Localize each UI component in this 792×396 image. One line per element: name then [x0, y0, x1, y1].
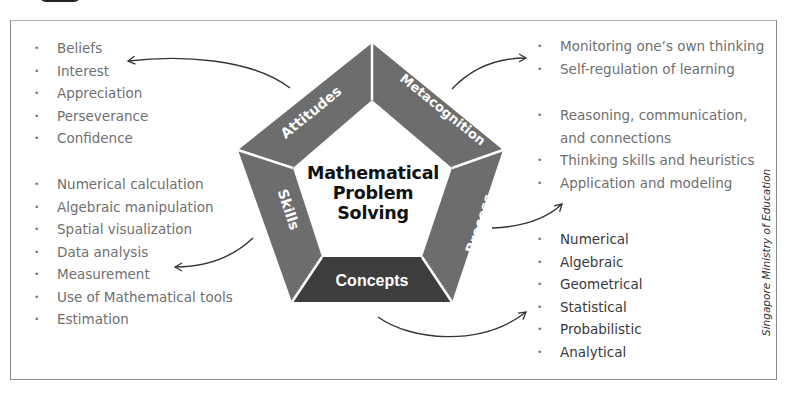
list-item: Spatial visualization [33, 218, 233, 241]
list-item: Algebraic manipulation [33, 196, 233, 219]
concepts-arrow [378, 312, 526, 337]
list-item: Estimation [33, 308, 233, 331]
attitudes-arrow [128, 58, 290, 88]
concepts-label: Concepts [336, 272, 409, 289]
list-item-continuation: and connections [536, 127, 754, 150]
list-item: Probabilistic [536, 318, 643, 341]
list-item: Algebraic [536, 251, 643, 274]
center-title: Mathematical Problem Solving [300, 163, 446, 223]
list-item: Geometrical [536, 273, 643, 296]
process-arrow [492, 204, 562, 228]
attitudes-list: Beliefs Interest Appreciation Perseveran… [33, 37, 148, 150]
center-title-line-2: Problem [300, 183, 446, 203]
list-item: Measurement [33, 263, 233, 286]
center-title-line-1: Mathematical [300, 163, 446, 183]
list-item: Numerical [536, 228, 643, 251]
list-item: Confidence [33, 127, 148, 150]
metacognition-arrow [452, 58, 526, 89]
list-item: Perseverance [33, 105, 148, 128]
metacognition-list: Monitoring one’s own thinking Self-regul… [536, 35, 764, 80]
concepts-list: Numerical Algebraic Geometrical Statisti… [536, 228, 643, 363]
list-item: Appreciation [33, 82, 148, 105]
list-item: Numerical calculation [33, 173, 233, 196]
list-item: Data analysis [33, 241, 233, 264]
center-title-line-3: Solving [300, 203, 446, 223]
list-item: Thinking skills and heuristics [536, 149, 754, 172]
list-item: Beliefs [33, 37, 148, 60]
list-item: Reasoning, communication, [536, 104, 754, 127]
list-item: Application and modeling [536, 172, 754, 195]
list-item: Statistical [536, 296, 643, 319]
list-item: Use of Mathematical tools [33, 286, 233, 309]
source-credit: Singapore Ministry of Education [760, 169, 772, 336]
process-list: Reasoning, communication, and connection… [536, 104, 754, 194]
list-item: Self-regulation of learning [536, 58, 764, 81]
list-item: Interest [33, 60, 148, 83]
skills-list: Numerical calculation Algebraic manipula… [33, 173, 233, 331]
list-item: Monitoring one’s own thinking [536, 35, 764, 58]
list-item: Analytical [536, 341, 643, 364]
